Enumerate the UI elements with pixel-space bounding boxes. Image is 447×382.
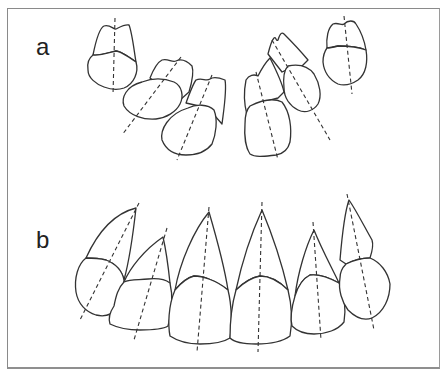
teeth-illustration [0, 0, 447, 382]
tooth-b3 [169, 207, 231, 352]
panel-b-teeth [75, 194, 390, 352]
tooth-a6 [323, 16, 367, 94]
tooth-b5 [291, 222, 345, 340]
panel-a-teeth [88, 16, 367, 160]
tooth-a1 [88, 18, 137, 95]
tooth-b4 [230, 202, 291, 352]
tooth-b6 [339, 194, 390, 330]
